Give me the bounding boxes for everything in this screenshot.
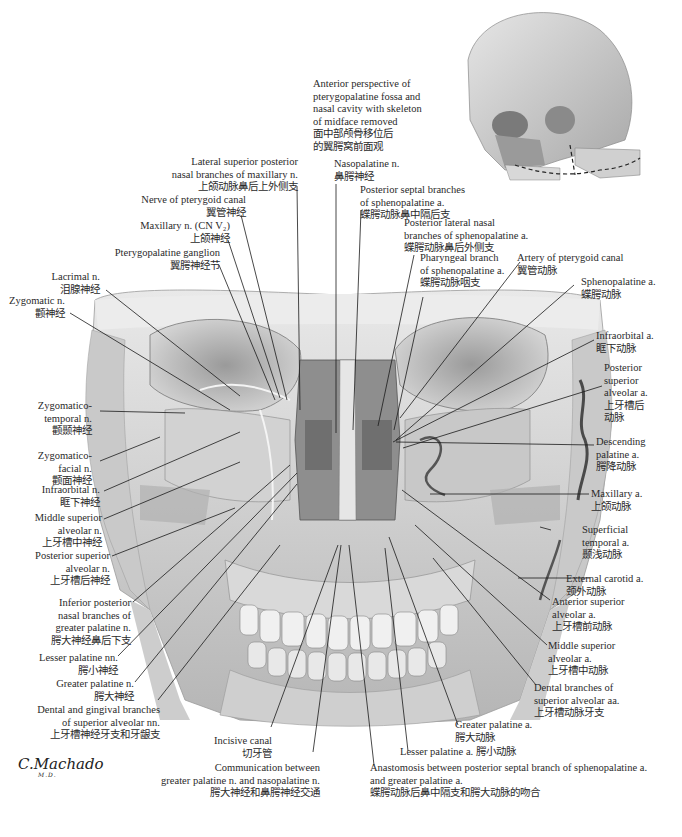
- label-zygomatic-nerve: Zygomatic n. 颧神经: [9, 295, 65, 320]
- label-nerve-pterygoid-canal: Nerve of pterygoid canal 翼管神经: [141, 194, 246, 219]
- main-skull-front: [86, 290, 612, 726]
- label-greater-palatine-artery: Greater palatine a. 腭大动脉: [455, 719, 532, 744]
- label-maxillary-artery: Maxillary a. 上颌动脉: [591, 488, 642, 513]
- inset-caption: Anterior perspective of pterygopalatine …: [313, 78, 422, 153]
- label-pterygopalatine-ganglion: Pterygopalatine ganglion 翼腭神经节: [115, 247, 220, 272]
- label-lesser-palatine-artery: Lesser palatine a. 腭小动脉: [400, 746, 516, 759]
- label-posterior-lateral-nasal-branches: Posterior lateral nasal branches of sphe…: [404, 217, 528, 255]
- label-descending-palatine-artery: Descending palatine a. 腭降动脉: [596, 436, 646, 474]
- inset-skull: [468, 13, 640, 180]
- label-inferior-posterior-nasal-branches: Inferior posterior nasal branches of gre…: [51, 597, 131, 647]
- label-greater-palatine-nerve: Greater palatine n. 腭大神经: [56, 678, 134, 703]
- label-posterior-superior-alveolar-artery: Posterior superior alveolar a. 上牙槽后 动脉: [604, 362, 648, 425]
- label-lateral-superior-posterior-nasal: Lateral superior posterior nasal branche…: [172, 156, 298, 194]
- label-middle-superior-alveolar-artery: Middle superior alveolar a. 上牙槽中动脉: [548, 640, 615, 678]
- label-anastomosis: Anastomosis between posterior septal bra…: [370, 762, 647, 800]
- label-dental-branches-superior-alveolar-arteries: Dental branches of superior alveolar aa.…: [534, 682, 619, 720]
- label-infraorbital-nerve: Infraorbital n. 眶下神经: [42, 484, 100, 509]
- label-middle-superior-alveolar-nerve: Middle superior alveolar n. 上牙槽中神经: [35, 512, 102, 550]
- label-infraorbital-artery: Infraorbital a. 眶下动脉: [596, 330, 654, 355]
- label-zygomaticotemporal-nerve: Zygomatico- temporal n. 颧颞神经: [38, 400, 92, 438]
- label-external-carotid-artery: External carotid a. 颈外动脉: [566, 573, 643, 598]
- label-dental-gingival-branches: Dental and gingival branches of superior…: [37, 704, 160, 742]
- label-anterior-superior-alveolar-artery: Anterior superior alveolar a. 上牙槽前动脉: [552, 596, 625, 634]
- label-posterior-septal-branches: Posterior septal branches of sphenopalat…: [360, 184, 465, 222]
- label-sphenopalatine-artery: Sphenopalatine a. 蝶腭动脉: [581, 276, 656, 301]
- label-nasopalatine-nerve: Nasopalatine n. 鼻腭神经: [334, 158, 399, 183]
- label-posterior-superior-alveolar-nerve: Posterior superior alveolar n. 上牙槽后神经: [35, 550, 110, 588]
- label-communication-palatine-nasopalatine: Communication between greater palatine n…: [161, 762, 320, 800]
- label-lesser-palatine-nerves: Lesser palatine nn. 腭小神经: [39, 652, 118, 677]
- label-maxillary-nerve: Maxillary n. (CN V₂) 上颌神经: [140, 220, 230, 245]
- label-pharyngeal-branch: Pharyngeal branch of sphenopalatine a. 蝶…: [420, 252, 504, 290]
- label-artery-pterygoid-canal: Artery of pterygoid canal 翼管动脉: [517, 252, 623, 277]
- artist-signature: C.Machado M.D.: [18, 755, 104, 778]
- label-incisive-canal: Incisive canal 切牙管: [214, 735, 272, 760]
- label-superficial-temporal-artery: Superficial temporal a. 颞浅动脉: [582, 524, 629, 562]
- label-lacrimal-nerve: Lacrimal n. 泪腺神经: [52, 271, 100, 296]
- label-zygomaticofacial-nerve: Zygomatico- facial n. 颧面神经: [38, 450, 92, 488]
